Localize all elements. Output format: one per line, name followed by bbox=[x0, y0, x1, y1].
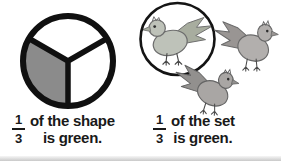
fraction-one-third: 1 3 bbox=[12, 113, 25, 145]
circle-caption: 1 3 of the shape is green. bbox=[12, 112, 124, 146]
fraction-numerator: 1 bbox=[156, 113, 163, 126]
caption-line-2: is green. bbox=[171, 129, 235, 146]
set-caption: 1 3 of the set is green. bbox=[153, 112, 277, 146]
fraction-numerator: 1 bbox=[15, 113, 22, 126]
fraction-denominator: 3 bbox=[15, 132, 22, 145]
gray-bird-bottom-icon bbox=[172, 64, 240, 118]
fraction-one-third: 1 3 bbox=[153, 113, 166, 145]
fraction-bar bbox=[12, 128, 25, 130]
fraction-pie-icon bbox=[16, 9, 120, 113]
bird-set-graphic bbox=[138, 0, 281, 130]
fraction-worksheet-illustration: 1 3 of the shape is green. 1 3 of the se… bbox=[0, 0, 281, 161]
scan-edge-shadow bbox=[0, 156, 281, 161]
caption-line-2: is green. bbox=[30, 129, 115, 146]
gray-bird-top-right-icon bbox=[215, 21, 279, 71]
caption-line-1: of the shape bbox=[30, 112, 115, 129]
fraction-bar bbox=[153, 128, 166, 130]
caption-line-1: of the set bbox=[171, 112, 235, 129]
green-bird-icon bbox=[142, 17, 213, 65]
fraction-denominator: 3 bbox=[156, 132, 163, 145]
